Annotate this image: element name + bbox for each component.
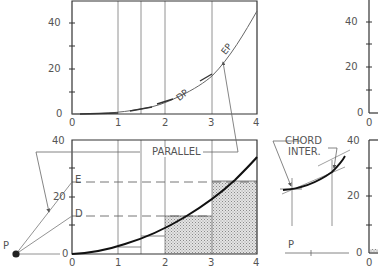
top-x-tick-4: 4 bbox=[253, 118, 259, 128]
right-bottom-x-tick-0: 0 bbox=[366, 258, 372, 268]
right-bottom-y-tick-20: 20 bbox=[347, 191, 360, 201]
graphical-integration-diagram: 40 20 0 0 1 2 3 4 DP EP 40 20 0 E D P 0 … bbox=[0, 0, 378, 268]
d-mark-label: D bbox=[75, 209, 83, 219]
chord-label-line2: INTER. bbox=[288, 147, 321, 157]
chord-verticals bbox=[292, 160, 332, 226]
bottom-chart bbox=[12, 62, 257, 258]
top-y-tick-20: 20 bbox=[48, 64, 61, 74]
top-y-tick-0: 0 bbox=[56, 109, 62, 119]
parallel-annotation: PARALLEL bbox=[150, 147, 203, 157]
shaded-step-2 bbox=[165, 216, 212, 254]
bottom-x-tick-3: 3 bbox=[208, 258, 214, 268]
top-x-tick-3: 3 bbox=[208, 118, 214, 128]
top-chord-segments bbox=[80, 74, 212, 114]
bottom-x-tick-4: 4 bbox=[253, 258, 259, 268]
pole-p-label: P bbox=[3, 241, 9, 251]
top-y-tick-40: 40 bbox=[48, 18, 61, 28]
diagram-canvas bbox=[0, 0, 378, 268]
chord-zero-label: 0 bbox=[356, 248, 362, 258]
bottom-y-tick-0: 0 bbox=[62, 249, 68, 259]
chord-pole-label: P bbox=[288, 240, 294, 250]
bottom-x-tick-2: 2 bbox=[162, 258, 168, 268]
bottom-y-tick-20: 20 bbox=[53, 192, 66, 202]
shaded-step-3 bbox=[212, 181, 257, 254]
right-top-y-tick-40: 40 bbox=[345, 17, 358, 27]
bottom-y-tick-40: 40 bbox=[52, 136, 65, 146]
pole-point bbox=[12, 250, 19, 257]
top-x-tick-2: 2 bbox=[162, 118, 168, 128]
right-bottom-y-tick-40: 40 bbox=[347, 136, 360, 146]
right-top-y-tick-0: 0 bbox=[357, 108, 363, 118]
top-gridlines bbox=[118, 1, 212, 114]
chord-tangent-3 bbox=[318, 150, 350, 166]
e-mark-label: E bbox=[75, 175, 81, 185]
bottom-x-tick-1: 1 bbox=[115, 258, 121, 268]
bottom-x-tick-0: 0 bbox=[69, 258, 75, 268]
top-chart-frame bbox=[72, 1, 257, 114]
chord-intersection-detail bbox=[273, 141, 350, 256]
chord-label-line1: CHORD bbox=[285, 136, 322, 146]
top-x-tick-1: 1 bbox=[115, 118, 121, 128]
top-x-tick-0: 0 bbox=[69, 118, 75, 128]
right-top-y-tick-20: 20 bbox=[345, 62, 358, 72]
right-top-x-tick-0: 0 bbox=[366, 118, 372, 128]
